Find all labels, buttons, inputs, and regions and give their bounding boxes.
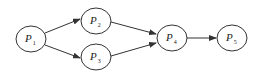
edge-p2-p4	[111, 22, 156, 34]
edge-p3-p4	[111, 43, 156, 56]
node-p2: P2	[81, 8, 111, 34]
node-p5: P5	[217, 25, 247, 51]
node-p1: P1	[16, 26, 46, 52]
edge-p1-p2	[45, 19, 80, 33]
node-p4: P4	[157, 25, 187, 51]
node-p3: P3	[81, 44, 111, 70]
process-precedence-graph: P1 P2 P3 P4 P5	[0, 0, 261, 75]
edge-p1-p3	[45, 45, 80, 58]
